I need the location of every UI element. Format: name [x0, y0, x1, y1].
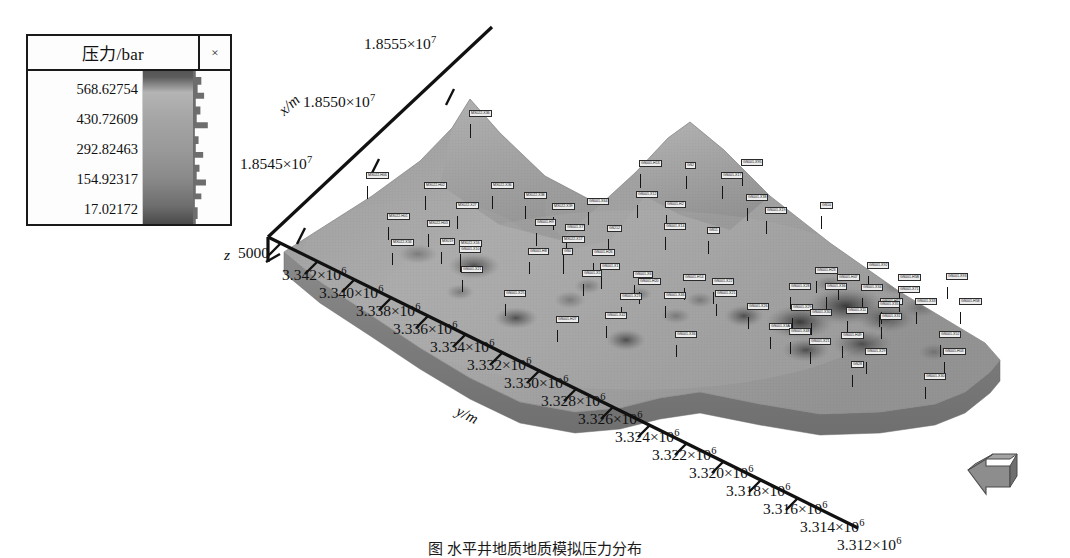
- well-label: GS001-X35: [878, 301, 900, 308]
- well-stem: [428, 234, 429, 247]
- y-tick-label-2: 3.338×106: [356, 302, 420, 319]
- z-axis-value: 5000: [238, 245, 269, 261]
- y-tick-label-13: 3.316×106: [763, 500, 827, 517]
- legend-tick-3: 154.92317: [76, 171, 138, 188]
- well-label: GS001-X14: [664, 223, 686, 230]
- z-axis-title: z: [224, 246, 230, 264]
- well-stem: [470, 124, 471, 138]
- well-stem: [665, 237, 666, 250]
- well-label: MX019: [440, 238, 455, 245]
- well-label: MX022-X36: [491, 182, 514, 189]
- well-stem: [676, 345, 677, 357]
- y-tick-label-6: 3.330×106: [504, 374, 568, 391]
- well-stem: [940, 345, 941, 357]
- y-tick-label-0: 3.342×106: [282, 266, 346, 283]
- well-label: GS2: [685, 162, 696, 169]
- well-label: GS001-X38: [746, 194, 768, 201]
- well-label: GS001-X46: [664, 292, 686, 299]
- well-stem: [852, 375, 853, 387]
- well-label: GS001-X21: [809, 338, 831, 345]
- legend-titlebar: 压力/bar ×: [28, 36, 230, 71]
- y-tick-label-14: 3.314×106: [800, 518, 864, 535]
- well-label: GS001-X64: [587, 198, 609, 205]
- y-tick-label-7: 3.328×106: [541, 392, 605, 409]
- well-label: GS001-H2: [665, 201, 686, 208]
- well-label: GS001-H27: [556, 316, 579, 323]
- well-label: GS001-X11: [846, 307, 868, 314]
- well-stem: [810, 352, 811, 364]
- well-label: GS001-H03: [943, 348, 966, 355]
- well-label: GS001-X95: [741, 159, 763, 166]
- well-label: GS001-X33: [915, 298, 937, 305]
- well-stem: [748, 317, 749, 329]
- well-label: GS001-X28: [789, 283, 811, 290]
- legend-tick-group: 568.62754430.72609292.82463154.9231717.0…: [28, 71, 142, 224]
- x-tick-label-0: 1.8555×107: [364, 35, 436, 52]
- well-stem: [640, 174, 641, 188]
- well-label: MX022-H03: [427, 220, 450, 227]
- well-stem: [770, 337, 771, 349]
- well-stem: [637, 205, 638, 218]
- well-stem: [916, 312, 917, 324]
- legend-tick-0: 568.62754: [76, 81, 138, 98]
- legend-histogram-pad: [193, 71, 230, 224]
- well-stem: [457, 216, 458, 229]
- well-stem: [367, 186, 368, 199]
- x-tick-label-2: 1.8545×107: [240, 155, 312, 172]
- close-icon[interactable]: ×: [198, 36, 230, 69]
- well-label: MX022-X27: [456, 202, 479, 209]
- well-stem: [821, 216, 822, 229]
- well-label: GS001-X5: [582, 270, 602, 277]
- well-stem: [505, 304, 506, 316]
- well-stem: [722, 186, 723, 199]
- well-label: GS001-X30: [924, 373, 946, 380]
- well-label: GS001-X31: [880, 313, 902, 320]
- well-label: GS001-X93: [946, 273, 968, 280]
- well-label: GS001-X7: [565, 224, 585, 231]
- well-label: GS001-X36: [675, 331, 697, 338]
- well-label: GS001-X19: [765, 207, 787, 214]
- well-stem: [388, 227, 389, 240]
- well-stem: [947, 287, 948, 299]
- well-stem: [441, 252, 442, 264]
- well-stem: [462, 280, 463, 292]
- well-label: GS001-X1: [600, 263, 620, 270]
- well-label: MX022-X38: [524, 192, 547, 199]
- well-label: GS001-H14: [683, 274, 706, 281]
- well-label: MX022-X17: [562, 236, 585, 243]
- well-stem: [866, 362, 867, 374]
- well-label: GS001-X6: [633, 271, 653, 278]
- well-label: MX022-X36: [469, 110, 492, 117]
- well-label: GS001-X71: [898, 286, 920, 293]
- well-label: GS001-X21: [715, 290, 737, 297]
- well-label: GS001-H26: [592, 249, 615, 256]
- well-label: GS001-X42: [605, 312, 627, 319]
- well-stem: [525, 206, 526, 219]
- well-stem: [826, 297, 827, 309]
- well-label: GS001-X22: [712, 278, 734, 285]
- y-tick-label-3: 3.336×106: [393, 320, 457, 337]
- well-label: GS001-X17: [721, 172, 743, 179]
- well-label: MX022-X34: [391, 239, 414, 246]
- well-label: GS212: [607, 225, 622, 232]
- well-stem: [492, 196, 493, 209]
- well-label: GS001-X52: [939, 331, 961, 338]
- well-label: GS28: [851, 361, 864, 368]
- well-stem: [606, 326, 607, 338]
- pressure-legend-window[interactable]: 压力/bar × 568.62754430.72609292.82463154.…: [26, 34, 232, 226]
- surface-shading: [270, 90, 1030, 440]
- well-stem: [392, 253, 393, 265]
- colorbar-histogram: [143, 71, 193, 224]
- legend-tick-2: 292.82463: [76, 141, 138, 158]
- legend-tick-1: 430.72609: [76, 111, 138, 128]
- y-tick-label-5: 3.332×106: [467, 356, 531, 373]
- well-label: GS001-H8: [528, 248, 549, 255]
- y-tick-label-4: 3.334×106: [430, 338, 494, 355]
- y-tick-label-12: 3.318×106: [726, 482, 790, 499]
- well-stem: [816, 281, 817, 293]
- well-label: GS001-H9: [535, 219, 556, 226]
- well-stem: [881, 327, 882, 339]
- well-label: GS10: [820, 202, 833, 209]
- well-label: GS001-X36: [825, 283, 847, 290]
